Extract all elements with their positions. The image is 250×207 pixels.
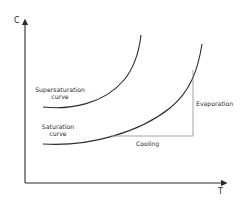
- x-axis-label: T: [218, 187, 223, 196]
- supersaturation-label: Supersaturation curve: [27, 86, 93, 101]
- saturation-label-line2: curve: [35, 130, 81, 137]
- supersaturation-label-line2: curve: [27, 93, 93, 100]
- solubility-diagram: C T Supersaturation curve Saturation cur…: [0, 0, 250, 207]
- saturation-label-line1: Saturation: [35, 123, 81, 130]
- evaporation-label: Evaporation: [196, 100, 233, 107]
- supersaturation-label-line1: Supersaturation: [27, 86, 93, 93]
- cooling-label: Cooling: [136, 140, 159, 147]
- saturation-label: Saturation curve: [35, 123, 81, 138]
- y-axis-label: C: [14, 16, 20, 25]
